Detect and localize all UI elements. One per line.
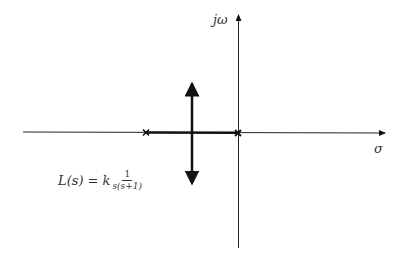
- equation-numerator: 1: [122, 170, 132, 181]
- equation-fraction: 1 s(s+1): [112, 170, 142, 191]
- real-axis-label: σ: [374, 141, 383, 156]
- equation-denominator: s(s+1): [112, 181, 142, 191]
- root-locus-plot: [0, 0, 401, 258]
- equation-lhs: L(s) = k: [58, 173, 110, 188]
- imag-axis-label: jω: [213, 12, 228, 27]
- transfer-function-equation: L(s) = k 1 s(s+1): [58, 170, 142, 191]
